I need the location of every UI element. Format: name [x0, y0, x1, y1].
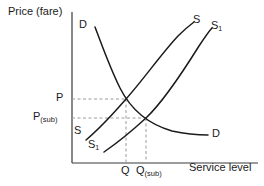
x-tick-quantity-subsidised: Q(sub) [136, 165, 162, 176]
x-tick-quantity-original: Q [121, 165, 130, 176]
y-tick-price-original: P [56, 92, 63, 103]
demand-curve [95, 27, 208, 135]
supply-subsidised-top-subscript: 1 [218, 25, 222, 32]
demand-curve-label-top: D [79, 19, 87, 30]
x-axis-title: Service level [189, 162, 251, 173]
supply-demand-chart: Price (fare) Service level D D S S1 S S1… [0, 0, 264, 186]
supply-subsidised-bottom-subscript: 1 [95, 144, 99, 151]
quantity-subsidised-subscript: (sub) [145, 169, 162, 178]
supply-subsidised-curve-label-bottom: S1 [88, 139, 99, 150]
supply-subsidised-curve-label-top: S1 [211, 20, 222, 31]
supply-curve [86, 22, 194, 140]
price-subsidised-subscript: (sub) [40, 115, 57, 124]
y-axis-title: Price (fare) [8, 6, 62, 17]
quantity-subsidised-base: Q [136, 164, 145, 176]
chart-canvas [0, 0, 264, 186]
supply-curve-label-top: S [193, 14, 200, 25]
y-tick-price-subsidised: P(sub) [33, 111, 57, 122]
demand-curve-label-right: D [212, 128, 220, 139]
supply-curve-label-bottom: S [74, 125, 81, 136]
